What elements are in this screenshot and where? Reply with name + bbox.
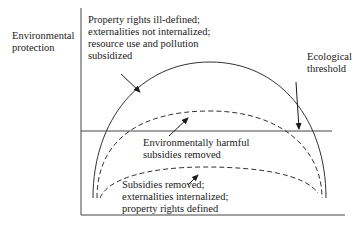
middle-curve-label: Environmentally harmful subsidies remove…	[143, 137, 249, 161]
diagram-canvas: Environmental protection Property rights…	[0, 0, 360, 225]
y-axis-label: Environmental protection	[12, 30, 74, 54]
inner-curve-label: Subsidies removed; externalities interna…	[122, 179, 228, 215]
outer-curve-arrow	[121, 74, 140, 92]
outer-curve-label: Property rights ill-defined; externaliti…	[88, 14, 210, 62]
threshold-label: Ecological threshold	[307, 51, 352, 75]
middle-curve-arrow	[169, 118, 188, 136]
